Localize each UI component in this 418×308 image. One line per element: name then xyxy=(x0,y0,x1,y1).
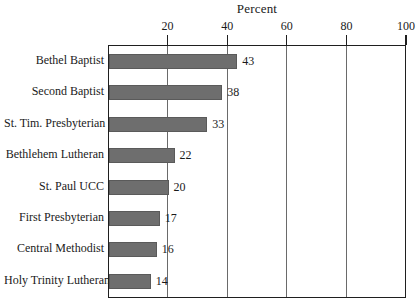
bar xyxy=(109,117,207,132)
x-axis-ticks xyxy=(108,35,406,45)
x-tick-label: 20 xyxy=(148,19,188,34)
x-axis-tick-mark xyxy=(286,35,287,45)
x-axis-tick-labels: 20406080100 xyxy=(0,19,418,34)
category-label: St. Tim. Presbyterian xyxy=(4,116,108,131)
bar xyxy=(109,148,175,163)
chart-title: Percent xyxy=(108,1,406,16)
x-axis-tick-mark xyxy=(405,35,406,45)
bar-value-label: 33 xyxy=(212,117,224,132)
plot-area: 4338332220171614 xyxy=(108,45,406,298)
x-axis-tick-mark xyxy=(346,35,347,45)
x-axis-tick-mark xyxy=(167,35,168,45)
bar-value-label: 20 xyxy=(174,180,186,195)
bar xyxy=(109,180,169,195)
category-label: Holy Trinity Lutheran xyxy=(4,273,108,288)
x-tick-label: 80 xyxy=(326,19,366,34)
category-label: Bethel Baptist xyxy=(4,53,108,68)
x-tick-label: 100 xyxy=(386,19,418,34)
gridline xyxy=(346,46,347,297)
gridline xyxy=(286,46,287,297)
gridline xyxy=(167,46,168,297)
bar-value-label: 43 xyxy=(242,54,254,69)
bar xyxy=(109,242,157,257)
bar-value-label: 16 xyxy=(162,242,174,257)
bar-value-label: 38 xyxy=(227,85,239,100)
bar-value-label: 22 xyxy=(180,148,192,163)
category-axis-labels: Bethel BaptistSecond BaptistSt. Tim. Pre… xyxy=(0,45,108,298)
gridline xyxy=(227,46,228,297)
bar xyxy=(109,85,222,100)
bar xyxy=(109,54,237,69)
plot-inner: 4338332220171614 xyxy=(109,46,405,297)
bar xyxy=(109,211,160,226)
category-label: First Presbyterian xyxy=(4,210,108,225)
bar-chart: Percent 20406080100 Bethel BaptistSecond… xyxy=(0,0,418,308)
bar-value-label: 17 xyxy=(165,211,177,226)
x-axis-tick-mark xyxy=(227,35,228,45)
x-tick-label: 60 xyxy=(267,19,307,34)
x-tick-label: 40 xyxy=(207,19,247,34)
bar-value-label: 14 xyxy=(156,274,168,289)
category-label: Bethlehem Lutheran xyxy=(4,147,108,162)
category-label: St. Paul UCC xyxy=(4,179,108,194)
bar xyxy=(109,274,151,289)
category-label: Central Methodist xyxy=(4,241,108,256)
category-label: Second Baptist xyxy=(4,84,108,99)
